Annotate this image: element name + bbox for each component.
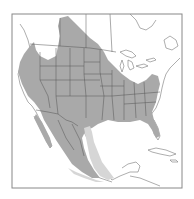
- range-map: [0, 0, 194, 199]
